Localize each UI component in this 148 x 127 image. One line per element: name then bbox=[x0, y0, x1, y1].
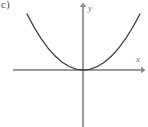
y-axis-arrowhead bbox=[80, 3, 87, 8]
x-axis-arrowhead bbox=[141, 66, 146, 73]
parabola-plot: y x bbox=[0, 0, 148, 127]
x-axis-label: x bbox=[135, 54, 140, 64]
figure-panel: c) y x bbox=[0, 0, 148, 127]
y-axis-label: y bbox=[87, 3, 92, 13]
